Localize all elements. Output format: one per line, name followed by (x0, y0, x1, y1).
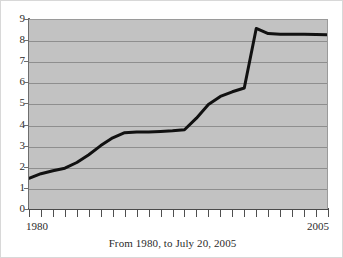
y-tick-label: 2 (3, 161, 25, 172)
x-tick-mark (316, 210, 317, 217)
x-axis-label-end: 2005 (307, 220, 329, 232)
x-tick-mark (41, 210, 42, 217)
x-tick-mark (101, 210, 102, 217)
x-tick-mark (208, 210, 209, 217)
y-tick-mark (24, 40, 29, 41)
chart-figure: 9876543210 1980 2005 From 1980, to July … (0, 0, 343, 258)
y-tick-mark (24, 82, 29, 83)
x-tick-mark (268, 210, 269, 217)
x-tick-mark (77, 210, 78, 217)
y-tick-label: 1 (3, 182, 25, 193)
y-tick-label: 9 (3, 13, 25, 24)
x-tick-mark (113, 210, 114, 217)
y-tick-mark (24, 209, 29, 210)
y-tick-label: 5 (3, 97, 25, 108)
x-tick-mark (65, 210, 66, 217)
x-tick-mark (89, 210, 90, 217)
chart-caption: From 1980, to July 20, 2005 (1, 237, 343, 249)
x-tick-mark (137, 210, 138, 217)
y-axis-labels: 9876543210 (1, 1, 25, 258)
x-tick-mark (256, 210, 257, 217)
x-tick-mark (173, 210, 174, 217)
x-tick-mark (280, 210, 281, 217)
x-tick-mark (184, 210, 185, 217)
x-tick-mark (149, 210, 150, 217)
y-tick-mark (24, 167, 29, 168)
x-tick-mark (220, 210, 221, 217)
y-tick-mark (24, 61, 29, 62)
y-tick-mark (24, 103, 29, 104)
data-series-line (29, 20, 328, 209)
x-axis-label-start: 1980 (26, 220, 48, 232)
x-tick-mark (161, 210, 162, 217)
x-tick-mark (53, 210, 54, 217)
y-tick-label: 0 (3, 203, 25, 214)
x-tick-mark (244, 210, 245, 217)
y-tick-mark (24, 125, 29, 126)
y-tick-label: 8 (3, 34, 25, 45)
x-tick-mark (29, 210, 30, 217)
y-tick-label: 6 (3, 76, 25, 87)
y-tick-mark (24, 19, 29, 20)
y-tick-mark (24, 146, 29, 147)
y-tick-label: 4 (3, 119, 25, 130)
y-tick-label: 7 (3, 55, 25, 66)
x-tick-mark (125, 210, 126, 217)
plot-area (29, 19, 328, 209)
y-tick-mark (24, 188, 29, 189)
x-tick-mark (328, 210, 329, 217)
y-tick-label: 3 (3, 140, 25, 151)
x-tick-mark (196, 210, 197, 217)
x-tick-mark (304, 210, 305, 217)
x-tick-mark (232, 210, 233, 217)
x-tick-mark (292, 210, 293, 217)
